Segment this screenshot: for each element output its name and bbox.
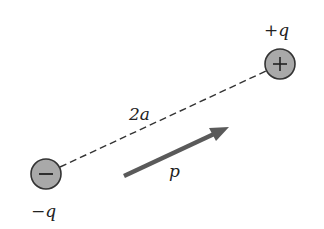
dipole-moment-label: p: [169, 163, 180, 180]
negative-charge-label: −q: [31, 203, 56, 220]
separation-label: 2a: [129, 106, 150, 123]
positive-charge: [265, 49, 295, 79]
negative-charge: [31, 159, 61, 189]
positive-charge-label: +q: [264, 22, 289, 39]
separation-dashed-line: [60, 71, 266, 167]
dipole-diagram: +q −q 2a p: [0, 0, 324, 229]
